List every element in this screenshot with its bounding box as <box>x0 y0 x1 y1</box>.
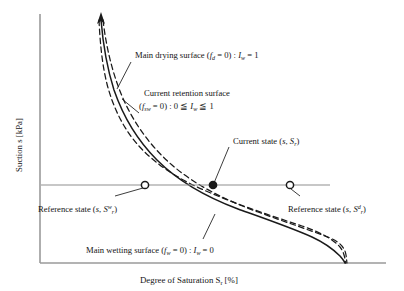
annotation-current-retention-surface-line1: Current retention surface <box>144 88 230 98</box>
x-axis-label: Degree of Saturation Sr [%] <box>140 275 238 286</box>
y-axis-label: Suction s [kPa] <box>14 118 24 172</box>
leader-reference-state-wetting <box>115 188 143 196</box>
annotation-reference-state-drying: Reference state (s, Sdr) <box>288 204 366 216</box>
figure-canvas: Main drying surface (fd = 0) : Iw = 1 Cu… <box>0 0 404 291</box>
leader-current-state <box>214 147 229 183</box>
axis-frame <box>40 14 386 263</box>
leader-reference-state-drying <box>291 189 300 196</box>
annotation-current-retention-surface-line2: (fsw = 0) : 0 ≦ Iw ≦ 1 <box>139 101 214 112</box>
annotation-current-state: Current state (s, Sr) <box>233 136 300 147</box>
reference-state-wetting-marker[interactable] <box>141 181 148 188</box>
leader-main-drying-surface <box>117 62 131 89</box>
retention-curve-figure: Main drying surface (fd = 0) : Iw = 1 Cu… <box>0 0 404 291</box>
leader-main-wetting-surface <box>203 214 215 239</box>
annotation-reference-state-wetting: Reference state (s, Swr) <box>38 204 117 216</box>
reference-state-drying-marker[interactable] <box>286 181 293 188</box>
leader-current-retention-surface <box>122 99 139 113</box>
annotation-main-drying-surface: Main drying surface (fd = 0) : Iw = 1 <box>135 50 259 61</box>
current-state-marker[interactable] <box>209 181 216 188</box>
annotation-main-wetting-surface: Main wetting surface (fw = 0) : Iw = 0 <box>86 245 214 256</box>
